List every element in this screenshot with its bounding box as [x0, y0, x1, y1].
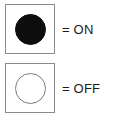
- legend-swatch-box-on: [5, 4, 55, 54]
- filled-circle-icon: [15, 14, 46, 45]
- legend-label-off: = OFF: [62, 82, 100, 95]
- legend-label-on: = ON: [62, 23, 94, 36]
- legend: = ON = OFF: [0, 0, 115, 122]
- legend-item-on: = ON: [0, 3, 115, 55]
- hollow-circle-icon: [15, 73, 46, 104]
- legend-swatch-box-off: [5, 63, 55, 113]
- legend-item-off: = OFF: [0, 62, 115, 114]
